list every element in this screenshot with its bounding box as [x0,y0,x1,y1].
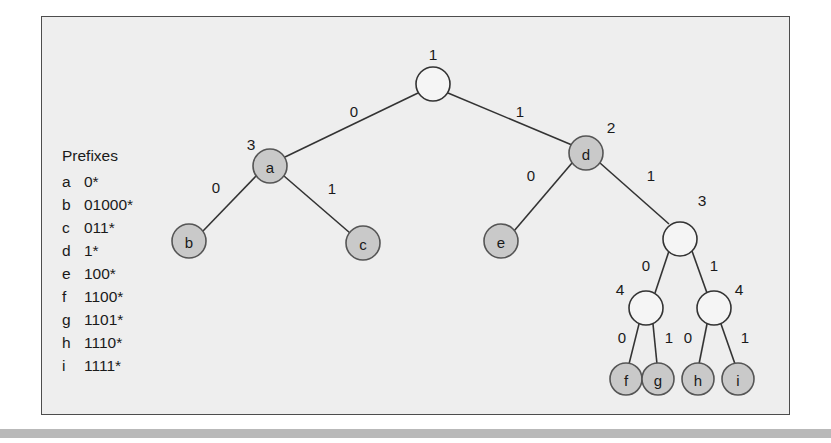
edge-bit-label: 1 [647,167,655,184]
trie-edge-n3-n4r [692,251,707,293]
edge-bit-label: 0 [684,329,692,346]
edge-bit-label: 1 [328,180,336,197]
edge-bit-label: 1 [710,257,718,274]
trie-node-root [416,67,450,101]
edge-bit-label: 0 [642,257,650,274]
edges-group [203,93,735,364]
trie-edge-d-n3 [600,163,669,224]
trie-edge-n4l-f [629,324,639,364]
binary-trie-diagram: 010101010101 adbcefghi 132344 [42,17,791,416]
edge-bit-label: 0 [350,103,358,120]
trie-node-label-g: g [654,372,662,389]
level-labels-group: 132344 [247,46,744,298]
edge-bit-label: 0 [212,179,220,196]
trie-edge-d-e [514,163,572,231]
edge-bit-label: 0 [618,329,626,346]
trie-node-label-c: c [359,236,367,253]
figure-frame: Prefixes a 0* b 01000* c 011* d 1* e 100… [41,16,790,415]
edge-bit-label: 1 [741,329,749,346]
trie-level-label-a: 3 [247,136,256,153]
trie-edge-root-d [448,93,572,145]
trie-level-label-d: 2 [607,119,616,136]
trie-node-label-h: h [694,372,702,389]
trie-node-n4l [629,291,663,325]
trie-node-label-a: a [266,159,275,176]
page-canvas: the bits of the prefix and the number of… [0,0,831,443]
bleed-bar [0,429,831,438]
trie-edge-n4r-h [699,324,707,364]
trie-node-label-e: e [497,234,505,251]
trie-node-n3 [663,222,697,256]
trie-node-label-d: d [582,146,590,163]
trie-node-label-b: b [185,234,193,251]
trie-node-label-i: i [736,372,739,389]
edge-bit-label: 0 [527,167,535,184]
trie-level-label-n3: 3 [698,192,707,209]
nodes-group: adbcefghi [172,67,754,395]
trie-edge-n4r-i [721,324,735,364]
trie-edge-n3-n4l [655,251,669,293]
edge-bit-label: 1 [516,103,524,120]
trie-level-label-root: 1 [429,46,438,63]
trie-node-n4r [697,291,731,325]
trie-edge-n4l-g [653,324,657,364]
trie-edge-a-c [284,176,350,233]
trie-level-label-n4r: 4 [735,281,744,298]
trie-level-label-n4l: 4 [616,281,625,298]
edge-bit-label: 1 [665,329,673,346]
